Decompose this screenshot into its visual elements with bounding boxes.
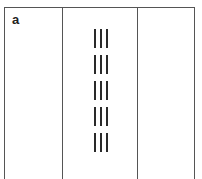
column-divider-right — [137, 7, 138, 179]
panel-label: a — [12, 13, 19, 26]
bar — [106, 107, 108, 126]
bar — [94, 55, 96, 74]
bar — [100, 55, 102, 74]
bar — [100, 81, 102, 100]
bar — [94, 29, 96, 48]
bar — [106, 133, 108, 152]
line-group-1 — [93, 29, 109, 48]
bar — [94, 107, 96, 126]
bar — [100, 133, 102, 152]
bar — [100, 107, 102, 126]
bar — [106, 29, 108, 48]
line-group-4 — [93, 107, 109, 126]
bar — [106, 55, 108, 74]
line-group-3 — [93, 81, 109, 100]
line-group-5 — [93, 133, 109, 152]
line-group-2 — [93, 55, 109, 74]
bar — [94, 81, 96, 100]
bar — [100, 29, 102, 48]
bar — [106, 81, 108, 100]
bar — [94, 133, 96, 152]
column-divider-left — [62, 7, 63, 179]
